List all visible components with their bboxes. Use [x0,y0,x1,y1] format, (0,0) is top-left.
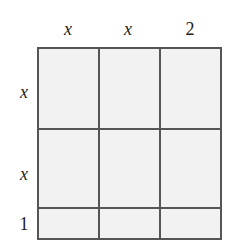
grid-divider-vertical-2 [159,49,161,238]
row-label-3: 1 [16,215,32,233]
grid-divider-horizontal-1 [39,128,220,130]
area-grid [37,47,222,240]
row-label-1: x [16,83,32,101]
column-label-2: x [118,20,138,38]
column-label-1: x [58,20,78,38]
column-label-3: 2 [180,20,200,38]
row-label-2: x [16,165,32,183]
grid-divider-vertical-1 [98,49,100,238]
grid-divider-horizontal-2 [39,207,220,209]
